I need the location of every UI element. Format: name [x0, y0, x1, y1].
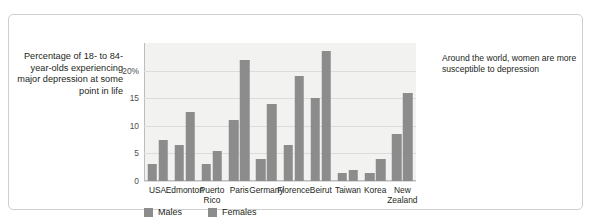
x-axis-tick-label: Edmonton — [166, 186, 204, 196]
bar-females — [294, 76, 304, 181]
bar-females — [158, 140, 168, 181]
bar-males — [256, 159, 266, 181]
plot-area: 05101520% USAEdmontonPuerto RicoParisGer… — [144, 43, 416, 181]
y-axis-tick-label: 5 — [134, 148, 139, 158]
bar-males — [338, 173, 348, 181]
bar-group: Germany — [253, 43, 280, 181]
chart-legend: Males Females — [144, 207, 257, 217]
legend-label-males: Males — [158, 207, 182, 217]
x-axis-tick-label: Paris — [230, 186, 249, 196]
bar-group: Taiwan — [334, 43, 361, 181]
chart-annotation: Around the world, women are more suscept… — [439, 51, 579, 77]
bar-males — [283, 145, 293, 181]
x-axis-tick-label: USA — [149, 186, 166, 196]
bar-group: Edmonton — [171, 43, 198, 181]
bar-females — [240, 60, 250, 181]
x-axis-tick-label: New Zealand — [387, 186, 417, 205]
y-axis-tick-label: 15 — [130, 93, 139, 103]
x-axis-tick-label: Puerto Rico — [200, 186, 225, 205]
y-axis-tick-label: 20% — [122, 66, 139, 76]
gridline — [144, 181, 416, 182]
chart-figure: Percentage of 18- to 84-year-olds experi… — [8, 14, 583, 210]
legend-swatch-males — [144, 208, 153, 217]
bar-males — [147, 164, 157, 181]
bar-females — [376, 159, 386, 181]
bar-females — [349, 170, 359, 181]
bar-males — [175, 145, 185, 181]
bar-females — [322, 51, 332, 181]
legend-swatch-females — [208, 208, 217, 217]
legend-item-females: Females — [208, 207, 257, 217]
bar-group: New Zealand — [389, 43, 416, 181]
bar-group: Florence — [280, 43, 307, 181]
legend-label-females: Females — [222, 207, 257, 217]
bar-group: Beirut — [307, 43, 334, 181]
y-axis-caption: Percentage of 18- to 84-year-olds experi… — [15, 51, 123, 97]
bar-group: Paris — [226, 43, 253, 181]
y-axis-tick-label: 10 — [130, 121, 139, 131]
x-axis-tick-label: Beirut — [310, 186, 332, 196]
y-axis-tick-label: 0 — [134, 176, 139, 186]
bar-females — [186, 112, 196, 181]
x-axis-tick-label: Taiwan — [335, 186, 361, 196]
bar-males — [202, 164, 212, 181]
bar-group: Puerto Rico — [198, 43, 225, 181]
bar-males — [365, 173, 375, 181]
bar-females — [403, 93, 413, 181]
x-axis-tick-label: Florence — [277, 186, 310, 196]
bar-males — [392, 134, 402, 181]
bar-group: USA — [144, 43, 171, 181]
x-axis-tick-label: Korea — [364, 186, 386, 196]
bar-males — [311, 98, 321, 181]
bar-females — [213, 151, 223, 181]
legend-item-males: Males — [144, 207, 182, 217]
bar-group: Korea — [362, 43, 389, 181]
bar-males — [229, 120, 239, 181]
bar-females — [267, 104, 277, 181]
